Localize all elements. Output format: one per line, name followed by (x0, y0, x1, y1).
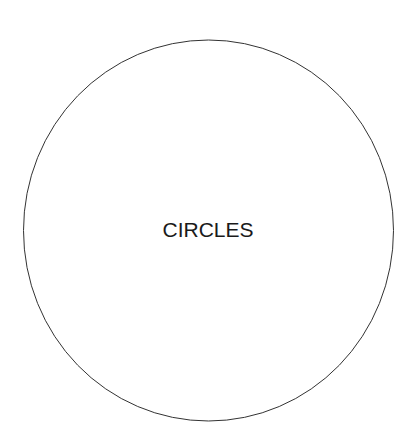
circle-label: CIRCLES (0, 217, 416, 243)
